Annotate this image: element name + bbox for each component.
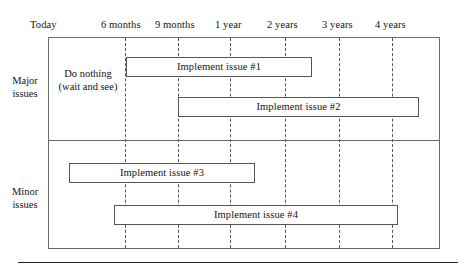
axis-tick-label: 4 years [375,19,406,31]
task-bar[interactable]: Implement issue #4 [114,205,398,225]
axis-tick-label: 1 year [215,19,242,31]
task-bar-label: Implement issue #1 [177,61,261,73]
task-bar[interactable]: Implement issue #2 [178,97,419,117]
do-nothing-line1: Do nothing [50,68,126,81]
task-bar-label: Implement issue #4 [214,209,298,221]
task-bar[interactable]: Implement issue #3 [69,163,255,183]
row-label-minor-line2: issues [4,199,46,212]
row-label-major-issues: Major issues [4,75,46,100]
do-nothing-line2: (wait and see) [50,81,126,94]
axis-tick-label: 3 years [322,19,353,31]
row-label-major-line2: issues [4,88,46,101]
row-label-major-line1: Major [4,75,46,88]
axis-tick-label: 2 years [267,19,298,31]
task-bar-label: Implement issue #3 [120,167,204,179]
task-bar-label: Implement issue #2 [256,101,340,113]
roadmap-diagram: Today6 months9 months1 year2 years3 year… [0,0,465,272]
axis-tick-label: 6 months [101,19,141,31]
axis-tick-label: 9 months [155,19,195,31]
do-nothing-annotation: Do nothing (wait and see) [50,68,126,93]
bottom-rule [18,262,458,263]
task-bar[interactable]: Implement issue #1 [126,57,312,77]
row-label-minor-issues: Minor issues [4,186,46,211]
axis-tick-label: Today [30,19,57,31]
band-divider [48,140,440,141]
row-label-minor-line1: Minor [4,186,46,199]
